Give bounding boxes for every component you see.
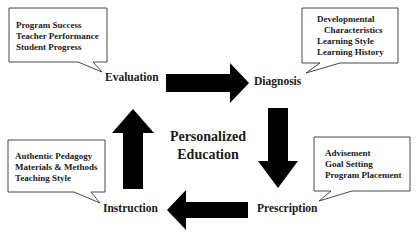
evaluation-item: Student Progress xyxy=(16,42,99,53)
diagnosis-item: Learning History xyxy=(317,47,384,58)
instruction-item: Teaching Style xyxy=(15,173,97,184)
prescription-item: Advisement xyxy=(325,148,402,159)
center-title-line1: Personalized xyxy=(165,128,251,146)
diagnosis-item: Developmental xyxy=(317,14,384,25)
stage-diagnosis: Diagnosis xyxy=(254,75,301,87)
evaluation-callout: Program Success Teacher Performance Stud… xyxy=(16,20,99,53)
personalized-education-cycle-diagram: Program Success Teacher Performance Stud… xyxy=(0,0,416,241)
diagnosis-item: Learning Style xyxy=(317,36,384,47)
arrow-left-icon xyxy=(167,190,248,230)
diagnosis-item: Characteristics xyxy=(317,25,384,36)
instruction-item: Materials & Methods xyxy=(15,162,97,173)
stage-prescription: Prescription xyxy=(257,202,317,214)
instruction-callout: Authentic Pedagogy Materials & Methods T… xyxy=(15,151,97,184)
prescription-callout: Advisement Goal Setting Program Placemen… xyxy=(325,148,402,181)
center-title-line2: Education xyxy=(165,146,251,164)
stage-instruction: Instruction xyxy=(103,202,158,214)
stage-evaluation: Evaluation xyxy=(105,71,159,83)
prescription-item: Goal Setting xyxy=(325,159,402,170)
arrow-down-icon xyxy=(258,108,298,188)
arrow-up-icon xyxy=(112,109,154,189)
prescription-item: Program Placement xyxy=(325,170,402,181)
diagnosis-callout: Developmental Characteristics Learning S… xyxy=(317,14,384,58)
arrow-right-icon xyxy=(166,63,249,103)
center-title: Personalized Education xyxy=(165,128,251,164)
evaluation-item: Program Success xyxy=(16,20,99,31)
instruction-item: Authentic Pedagogy xyxy=(15,151,97,162)
evaluation-item: Teacher Performance xyxy=(16,31,99,42)
